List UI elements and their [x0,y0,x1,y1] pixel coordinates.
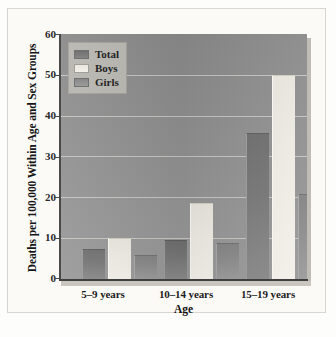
bar-total-15-19 [246,133,269,279]
y-tick-label-20: 20 [34,192,56,203]
figure-canvas: Deaths per 100,000 Within Age and Sex Gr… [0,0,336,337]
y-tick-label-0: 0 [34,273,56,284]
plot-area: Total Boys Girls [60,34,307,279]
x-axis-base-slab [61,281,311,286]
y-tick-label-50: 50 [34,69,56,80]
bar-total-10-14 [164,240,187,279]
bar-boys-15-19 [272,75,295,279]
gridline-10 [60,238,307,239]
legend-label-girls: Girls [95,77,119,88]
x-tick-label-5-9: 5–9 years [62,288,144,300]
bar-boys-10-14 [190,203,213,279]
gridline-30 [60,156,307,157]
legend-item-total: Total [74,47,119,61]
x-axis-line [59,279,308,281]
y-tick-label-40: 40 [34,110,56,121]
legend-swatch-total-icon [74,50,89,59]
y-axis-line [59,34,61,280]
legend-swatch-boys-icon [74,64,89,73]
bar-boys-5-9 [108,238,131,279]
y-tick-label-60: 60 [34,29,56,40]
legend-label-boys: Boys [95,63,118,74]
y-tick-label-10: 10 [34,232,56,243]
y-axis-ticks: 60 50 40 30 20 10 0 [30,0,56,337]
bar-total-5-9 [82,249,105,279]
bar-girls-10-14 [216,243,239,279]
legend-item-girls: Girls [74,75,119,89]
x-tick-label-10-14: 10–14 years [143,288,229,300]
gridline-40 [60,116,307,117]
legend-item-boys: Boys [74,61,119,75]
legend-label-total: Total [95,49,119,60]
x-axis-title: Age [60,303,307,315]
legend-swatch-girls-icon [74,78,89,87]
x-tick-label-15-19: 15–19 years [225,288,311,300]
bar-girls-15-19 [298,194,307,279]
y-tick-label-30: 30 [34,151,56,162]
chart-legend: Total Boys Girls [68,42,127,94]
bar-girls-5-9 [134,255,157,279]
gridline-20 [60,197,307,198]
